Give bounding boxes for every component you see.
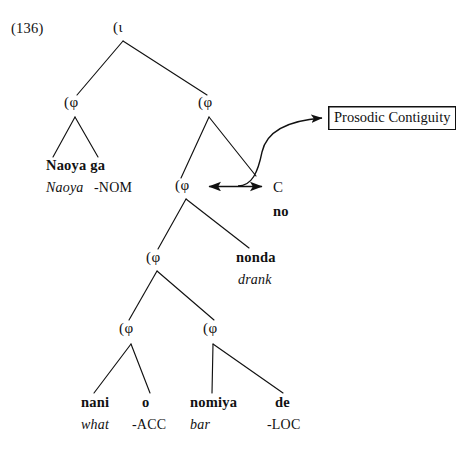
branch-phi-mid-lower-to-phi-bottom-right xyxy=(157,271,214,320)
branch-phi-mid-lower-to-phi-bottom-left xyxy=(129,271,157,320)
branch-phi-bottom-left-to-o xyxy=(131,344,150,393)
branch-phi-mid-upper-to-phi-mid-lower xyxy=(158,199,186,249)
branch-phi-bottom-right-to-nomiya xyxy=(212,344,213,393)
branch-phiright-to-phi-mid-upper xyxy=(181,117,209,178)
node-phi-bottom-right: (φ xyxy=(203,321,217,336)
branch-phiright-to-c xyxy=(209,117,256,176)
node-phi-mid-upper: (φ xyxy=(175,178,189,193)
prosodic-tree-figure: (136) (ι (φ (φ (φ (φ (φ (φ Naoya ga Naoy… xyxy=(0,0,463,455)
gloss-verb-italic: drank xyxy=(238,273,272,287)
gloss-subject-nom: -NOM xyxy=(94,181,132,195)
node-phi-mid-lower: (φ xyxy=(146,250,160,265)
tree-lines-layer xyxy=(0,0,463,455)
branch-phi-bottom-left-to-nani xyxy=(94,344,131,393)
node-phi-left: (φ xyxy=(64,95,78,110)
gloss-de-loc: -LOC xyxy=(267,418,300,432)
branch-phileft-to-ga xyxy=(75,117,98,157)
example-number: (136) xyxy=(11,21,43,36)
curved-pointer-arrow xyxy=(238,118,322,186)
terminal-c-category: C xyxy=(273,180,283,195)
gloss-o-acc: -ACC xyxy=(132,418,166,432)
terminal-o-surface: o xyxy=(142,395,149,410)
terminal-nani-surface: nani xyxy=(81,395,109,410)
branch-root-to-phi-right xyxy=(123,41,207,95)
gloss-subject-italic: Naoya xyxy=(46,181,84,195)
branch-phi-bottom-right-to-de xyxy=(213,344,283,393)
gloss-nomiya-italic: bar xyxy=(190,418,210,432)
terminal-nomiya-surface: nomiya xyxy=(190,395,237,410)
branch-root-to-phi-left xyxy=(77,41,123,95)
terminal-subject-surface: Naoya ga xyxy=(46,158,105,173)
terminal-verb-surface: nonda xyxy=(236,250,276,265)
tree-branch-group xyxy=(53,41,283,393)
gloss-nani-italic: what xyxy=(81,418,109,432)
terminal-de-surface: de xyxy=(275,395,290,410)
branch-phi-mid-upper-to-nonda xyxy=(186,199,249,248)
node-phi-bottom-left: (φ xyxy=(119,321,133,336)
prosodic-contiguity-box: Prosodic Contiguity xyxy=(328,106,456,130)
curved-pointer-path xyxy=(238,118,322,186)
prosodic-contiguity-label: Prosodic Contiguity xyxy=(334,109,450,126)
terminal-c-surface: no xyxy=(273,204,289,219)
node-root-iota: (ι xyxy=(113,20,123,35)
branch-phileft-to-naoya xyxy=(53,117,75,157)
node-phi-right: (φ xyxy=(198,95,212,110)
